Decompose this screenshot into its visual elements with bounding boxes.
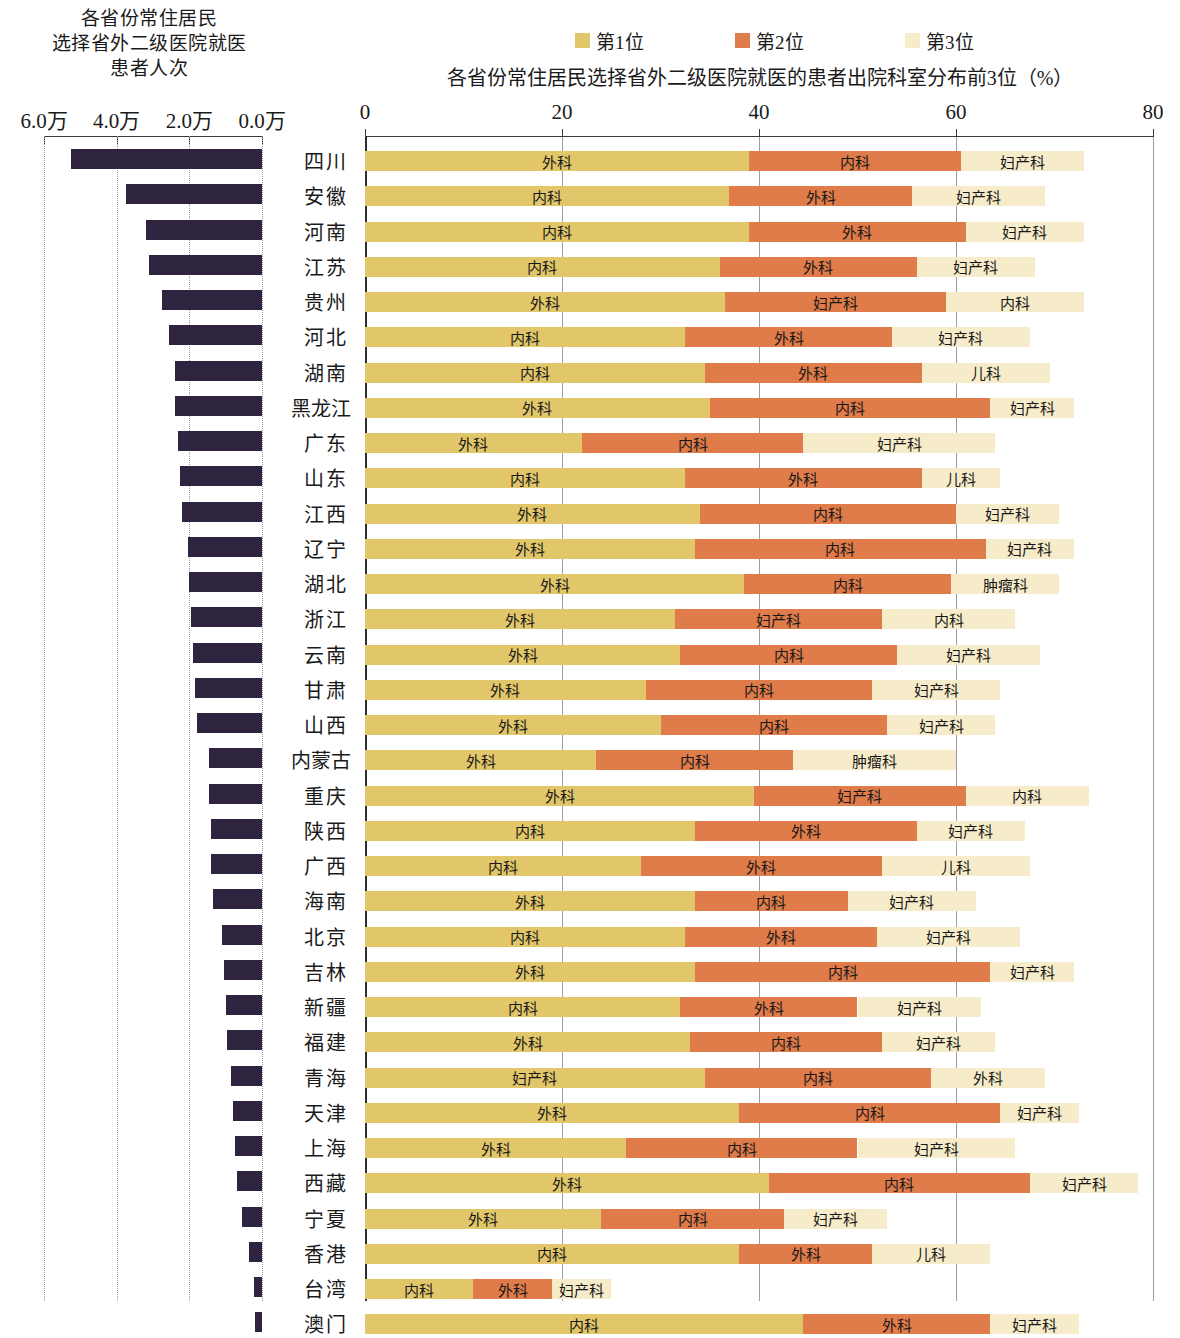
bar-segment-rank3-福建: 妇产科	[882, 1032, 995, 1052]
segment-label: 妇产科	[914, 1138, 959, 1159]
bar-segment-rank2-青海: 内科	[705, 1068, 932, 1088]
bar-segment-rank2-内蒙古: 内科	[596, 750, 793, 770]
bar-segment-rank3-西藏: 妇产科	[1030, 1173, 1138, 1193]
bar-segment-rank1-贵州: 外科	[365, 292, 725, 312]
bar-segment-rank3-宁夏: 妇产科	[784, 1209, 887, 1229]
segment-label: 妇产科	[512, 1067, 557, 1088]
bar-segment-rank1-湖南: 内科	[365, 363, 705, 383]
segment-label: 妇产科	[926, 926, 971, 947]
row-label-山西: 山西	[295, 707, 357, 742]
bar-segment-rank3-陕西: 妇产科	[917, 821, 1025, 841]
segment-label: 妇产科	[813, 292, 858, 313]
bar-segment-rank3-黑龙江: 妇产科	[990, 398, 1074, 418]
row-label-黑龙江: 黑龙江	[285, 390, 357, 425]
row-label-吉林: 吉林	[295, 954, 357, 989]
bar-segment-rank1-云南: 外科	[365, 645, 680, 665]
segment-label: 外科	[515, 538, 545, 559]
segment-label: 内科	[759, 715, 789, 736]
segment-label: 内科	[825, 538, 855, 559]
segment-label: 外科	[754, 997, 784, 1018]
row-label-江苏: 江苏	[295, 249, 357, 284]
segment-label: 外科	[505, 609, 535, 630]
bar-segment-rank3-天津: 妇产科	[1000, 1103, 1079, 1123]
bar-segment-rank2-西藏: 内科	[769, 1173, 1030, 1193]
bar-segment-rank2-甘肃: 内科	[646, 680, 873, 700]
segment-label: 妇产科	[1002, 221, 1047, 242]
bar-segment-rank1-甘肃: 外科	[365, 680, 646, 700]
bar-segment-rank2-上海: 内科	[626, 1138, 857, 1158]
bar-segment-rank3-浙江: 内科	[882, 609, 1015, 629]
bar-segment-rank3-山东: 儿科	[922, 468, 1001, 488]
bar-segment-rank2-山东: 外科	[685, 468, 921, 488]
bar-segment-rank1-吉林: 外科	[365, 962, 695, 982]
segment-label: 内科	[828, 961, 858, 982]
segment-label: 内科	[527, 256, 557, 277]
segment-label: 儿科	[971, 362, 1001, 383]
bar-segment-rank2-福建: 内科	[690, 1032, 882, 1052]
bar-segment-rank2-广西: 外科	[641, 856, 882, 876]
chart-row: 安徽内科外科妇产科	[0, 178, 1180, 213]
bar-segment-rank1-江西: 外科	[365, 504, 700, 524]
row-label-湖北: 湖北	[295, 566, 357, 601]
bar-segment-rank1-浙江: 外科	[365, 609, 675, 629]
bar-segment-rank3-甘肃: 妇产科	[872, 680, 1000, 700]
chart-row: 台湾内科外科妇产科	[0, 1271, 1180, 1306]
bar-segment-rank1-北京: 内科	[365, 927, 685, 947]
chart-row: 重庆外科妇产科内科	[0, 778, 1180, 813]
row-label-新疆: 新疆	[295, 989, 357, 1024]
bar-segment-rank2-澳门: 外科	[803, 1314, 990, 1334]
bar-segment-rank1-河北: 内科	[365, 327, 685, 347]
segment-label: 妇产科	[877, 433, 922, 454]
bar-segment-rank1-广东: 外科	[365, 433, 582, 453]
segment-label: 外科	[481, 1138, 511, 1159]
segment-label: 儿科	[916, 1243, 946, 1264]
segment-label: 外科	[458, 433, 488, 454]
bar-segment-rank2-四川: 内科	[749, 151, 961, 171]
bar-segment-rank3-吉林: 妇产科	[990, 962, 1074, 982]
bar-segment-rank1-香港: 内科	[365, 1244, 739, 1264]
bar-segment-rank3-重庆: 内科	[966, 786, 1089, 806]
bar-segment-rank3-安徽: 妇产科	[912, 186, 1045, 206]
bar-segment-rank2-辽宁: 内科	[695, 539, 986, 559]
segment-label: 内科	[510, 327, 540, 348]
segment-label: 外科	[791, 820, 821, 841]
segment-label: 儿科	[946, 468, 976, 489]
segment-label: 外科	[788, 468, 818, 489]
segment-label: 内科	[744, 679, 774, 700]
chart-row: 云南外科内科妇产科	[0, 637, 1180, 672]
segment-label: 外科	[774, 327, 804, 348]
bar-segment-rank1-澳门: 内科	[365, 1314, 803, 1334]
bar-segment-rank3-海南: 妇产科	[848, 891, 976, 911]
segment-label: 外科	[466, 750, 496, 771]
bar-segment-rank3-青海: 外科	[931, 1068, 1044, 1088]
segment-label: 内科	[508, 997, 538, 1018]
bar-segment-rank3-澳门: 妇产科	[990, 1314, 1079, 1334]
bar-segment-rank2-河南: 外科	[749, 222, 966, 242]
segment-label: 外科	[540, 574, 570, 595]
bar-segment-rank1-新疆: 内科	[365, 997, 680, 1017]
segment-label: 内科	[510, 926, 540, 947]
bar-segment-rank1-内蒙古: 外科	[365, 750, 596, 770]
segment-label: 外科	[746, 856, 776, 877]
bar-segment-rank2-宁夏: 内科	[601, 1209, 783, 1229]
chart-row: 贵州外科妇产科内科	[0, 284, 1180, 319]
segment-label: 内科	[532, 186, 562, 207]
segment-label: 妇产科	[559, 1279, 604, 1300]
row-label-北京: 北京	[295, 919, 357, 954]
chart-row: 河北内科外科妇产科	[0, 319, 1180, 354]
segment-label: 外科	[803, 256, 833, 277]
bar-segment-rank3-台湾: 妇产科	[552, 1279, 611, 1299]
row-label-台湾: 台湾	[295, 1271, 357, 1306]
row-label-贵州: 贵州	[295, 284, 357, 319]
bar-segment-rank1-海南: 外科	[365, 891, 695, 911]
bar-segment-rank1-宁夏: 外科	[365, 1209, 601, 1229]
bar-segment-rank1-福建: 外科	[365, 1032, 690, 1052]
row-label-重庆: 重庆	[295, 778, 357, 813]
segment-label: 内科	[678, 433, 708, 454]
chart-row: 上海外科内科妇产科	[0, 1130, 1180, 1165]
segment-label: 内科	[727, 1138, 757, 1159]
bar-segment-rank2-新疆: 外科	[680, 997, 857, 1017]
chart-row: 江苏内科外科妇产科	[0, 249, 1180, 284]
chart-row: 陕西内科外科妇产科	[0, 813, 1180, 848]
